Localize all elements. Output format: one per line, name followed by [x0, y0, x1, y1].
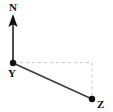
station-point-y: [10, 60, 16, 66]
diagram-canvas: N Y Z: [0, 0, 113, 112]
bearing-diagram-figure: N Y Z: [0, 0, 113, 112]
station-point-z: [89, 96, 95, 102]
background-plate: [0, 0, 113, 112]
station-z-label: Z: [97, 98, 104, 110]
station-y-label: Y: [8, 67, 16, 79]
north-label: N: [9, 1, 17, 13]
